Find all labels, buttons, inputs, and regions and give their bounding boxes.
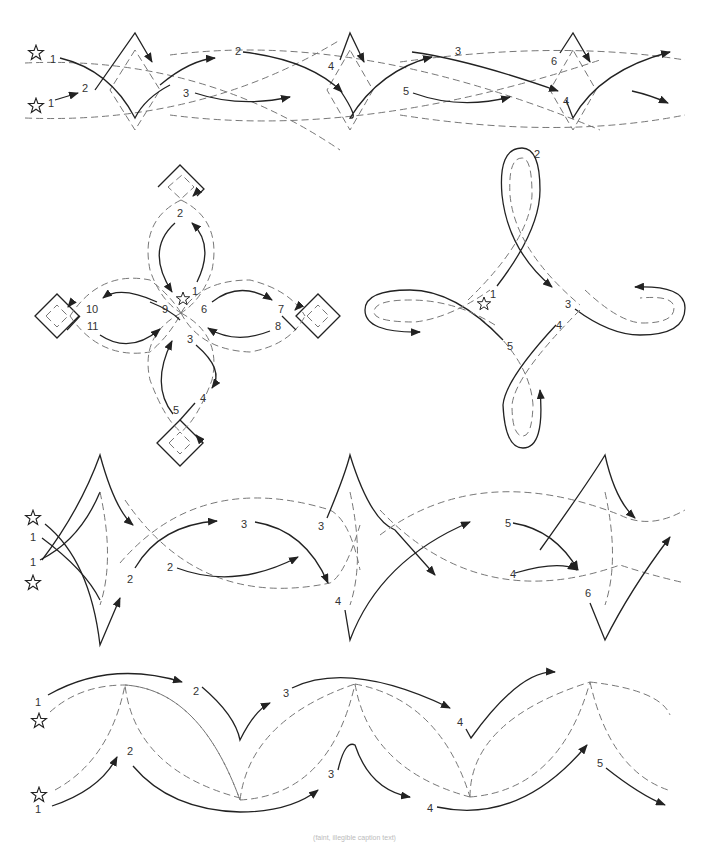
svg-text:7: 7 (278, 303, 284, 315)
svg-text:1: 1 (30, 556, 36, 568)
svg-text:3: 3 (318, 520, 324, 532)
svg-text:5: 5 (505, 517, 511, 529)
svg-text:4: 4 (563, 95, 569, 107)
svg-text:2: 2 (193, 685, 199, 697)
svg-text:2: 2 (235, 45, 241, 57)
svg-text:1: 1 (490, 288, 496, 300)
svg-text:4: 4 (556, 319, 562, 331)
svg-text:6: 6 (585, 587, 591, 599)
svg-text:2: 2 (534, 148, 540, 160)
svg-text:5: 5 (597, 757, 603, 769)
svg-text:4: 4 (510, 568, 516, 580)
star-icon (28, 98, 43, 112)
svg-text:6: 6 (551, 55, 557, 67)
star-icon (31, 787, 46, 801)
svg-text:1: 1 (50, 53, 56, 65)
svg-text:5: 5 (173, 404, 179, 416)
star-icon (477, 297, 490, 310)
cross-motif-squares: 12 34 56 78 910 11 (35, 165, 340, 466)
svg-text:5: 5 (403, 85, 409, 97)
svg-text:1: 1 (30, 531, 36, 543)
star-icon (25, 510, 40, 524)
svg-text:3: 3 (183, 87, 189, 99)
svg-text:4: 4 (200, 392, 206, 404)
quilting-diagram: 11 22 34 35 64 (0, 0, 709, 845)
svg-text:2: 2 (82, 82, 88, 94)
svg-text:8: 8 (275, 320, 281, 332)
svg-text:3: 3 (455, 45, 461, 57)
svg-text:4: 4 (328, 60, 334, 72)
svg-text:1: 1 (48, 97, 54, 109)
svg-text:2: 2 (167, 561, 173, 573)
svg-text:4: 4 (335, 595, 341, 607)
svg-text:3: 3 (187, 333, 193, 345)
svg-text:9: 9 (162, 303, 168, 315)
border-3-arcs: 11 22 33 44 5 (31, 672, 670, 815)
svg-text:10: 10 (86, 303, 98, 315)
svg-text:3: 3 (565, 298, 571, 310)
svg-text:4: 4 (457, 716, 463, 728)
star-icon (25, 575, 40, 589)
figure-caption: (faint, illegible caption text) (0, 834, 709, 841)
svg-text:2: 2 (127, 745, 133, 757)
svg-text:2: 2 (127, 573, 133, 585)
star-icon (31, 713, 46, 727)
star-icon (28, 45, 43, 59)
svg-text:6: 6 (201, 303, 207, 315)
four-loop-motif: 12 34 5 (365, 148, 685, 448)
svg-text:3: 3 (283, 687, 289, 699)
svg-text:4: 4 (427, 802, 433, 814)
svg-text:5: 5 (507, 340, 513, 352)
svg-text:3: 3 (241, 518, 247, 530)
svg-text:1: 1 (192, 285, 198, 297)
border-2-points: 11 22 33 45 46 (25, 455, 685, 645)
svg-text:1: 1 (35, 696, 41, 708)
svg-text:11: 11 (87, 320, 98, 332)
border-1-diamonds: 11 22 34 35 64 (25, 33, 685, 150)
svg-text:2: 2 (177, 207, 183, 219)
svg-text:3: 3 (328, 768, 334, 780)
svg-text:1: 1 (35, 803, 41, 815)
